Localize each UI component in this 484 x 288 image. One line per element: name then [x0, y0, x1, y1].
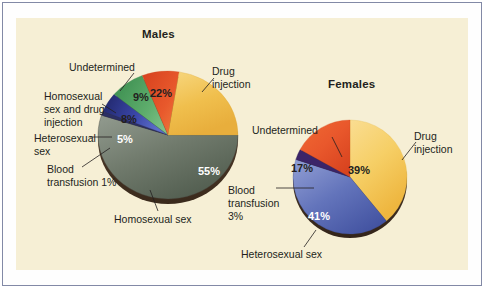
- females-label-heterosexual-sex: Heterosexual sex: [241, 248, 322, 261]
- males-label-undetermined: Undetermined: [69, 61, 135, 74]
- females-value-undetermined: 17%: [291, 162, 313, 174]
- females-chart-title: Females: [328, 78, 375, 90]
- females-value-drug-injection: 39%: [348, 164, 370, 176]
- males-value-heterosexual-sex: 5%: [117, 133, 133, 145]
- males-value-drug-injection: 22%: [150, 87, 172, 99]
- males-value-undetermined: 9%: [133, 91, 149, 103]
- males-label-heterosexual-sex: Heterosexual sex: [34, 132, 96, 158]
- males-value-homosexual-sex: 55%: [198, 165, 220, 177]
- males-label-homosexual-and-drug: Homosexual sex and drug injection: [44, 90, 105, 129]
- plot-field: Males: [16, 18, 468, 270]
- females-value-heterosexual-sex: 41%: [308, 210, 330, 222]
- females-label-drug-injection: Drug injection: [414, 130, 468, 156]
- males-chart-title: Males: [142, 28, 175, 40]
- females-label-undetermined: Undetermined: [252, 124, 318, 137]
- females-label-blood-transfusion: Blood transfusion 3%: [228, 184, 279, 223]
- males-label-blood-transfusion: Blood transfusion 1%: [47, 163, 116, 189]
- males-label-homosexual-sex: Homosexual sex: [114, 213, 192, 226]
- figure-root: Males: [0, 0, 484, 288]
- males-value-homosexual-and-drug: 8%: [121, 113, 137, 125]
- pie-chart-females: Females: [228, 70, 468, 270]
